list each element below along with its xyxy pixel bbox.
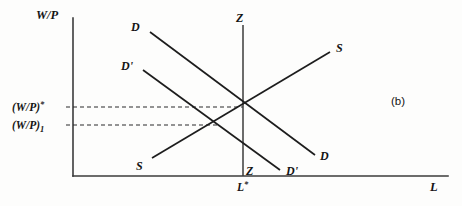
y-tick-wp-one-sub: 1 <box>40 124 44 134</box>
panel-label: (b) <box>391 95 405 107</box>
curve-label-demand-top: D <box>130 20 140 34</box>
x-axis-label: L <box>429 180 438 194</box>
curve-label-demand-bottom: D <box>319 149 329 163</box>
curve-demand-d-prime <box>143 70 280 170</box>
y-tick-wp-star-base: (W/P) <box>12 101 40 114</box>
y-tick-wp-star-sup: * <box>40 99 45 109</box>
curve-label-supply-top: S <box>336 41 343 55</box>
curve-label-vertical-bottom: Z <box>245 164 254 178</box>
economics-figure-panel-b: W/P L D D D' D' S S Z Z (W/P)* (W/P)1 L*… <box>0 0 462 206</box>
labour-market-diagram: W/P L D D D' D' S S Z Z (W/P)* (W/P)1 L*… <box>0 0 462 206</box>
curve-label-vertical-top: Z <box>235 11 244 25</box>
y-tick-label-wp-one: (W/P)1 <box>12 119 44 134</box>
y-tick-wp-one-base: (W/P) <box>12 119 40 132</box>
x-tick-label-l-star: L* <box>236 179 249 193</box>
curve-label-supply-bottom: S <box>136 159 143 173</box>
x-tick-l-star-sup: * <box>244 179 249 189</box>
curve-label-demand-shift-bottom: D' <box>285 164 299 178</box>
x-tick-l-star-base: L <box>236 181 244 193</box>
y-axis-label: W/P <box>36 8 59 22</box>
y-tick-label-wp-star: (W/P)* <box>12 99 45 114</box>
curve-label-demand-shift-top: D' <box>120 59 134 73</box>
